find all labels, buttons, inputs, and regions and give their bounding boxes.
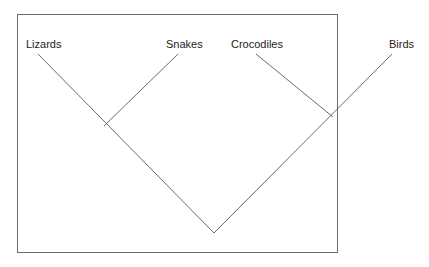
branch-snakes [104,54,178,126]
taxon-label-snakes: Snakes [166,38,203,50]
taxon-label-lizards: Lizards [26,38,61,50]
branch-lizards [38,54,214,233]
taxon-label-crocodiles: Crocodiles [231,38,283,50]
cladogram-tree [0,0,429,267]
branch-crocodiles [256,54,333,117]
branch-birds [214,54,392,233]
taxon-label-birds: Birds [389,38,414,50]
